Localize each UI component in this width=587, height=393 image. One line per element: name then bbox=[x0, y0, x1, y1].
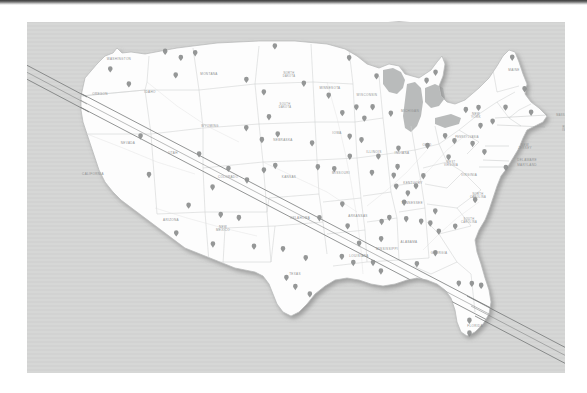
state-label-delaware: DELAWARE bbox=[517, 158, 537, 162]
state-label-missouri: MISSOURI bbox=[332, 171, 350, 175]
state-label-maryland: MARYLAND bbox=[517, 163, 537, 167]
state-label-south-dakota: SOUTHDAKOTA bbox=[279, 102, 292, 109]
state-label-kansas: KANSAS bbox=[282, 175, 296, 179]
state-label-louisiana: LOUISIANA bbox=[349, 254, 369, 258]
state-label-kentucky: KENTUCKY bbox=[403, 181, 422, 185]
state-label-nebraska: NEBRASKA bbox=[273, 138, 293, 142]
eclipse-path-line-center-pacific bbox=[27, 67, 87, 104]
state-label-minnesota: MINNESOTA bbox=[319, 86, 341, 90]
state-label-wyoming: WYOMING bbox=[201, 124, 219, 128]
state-label-new-jersey: NEWJERSEY bbox=[518, 143, 532, 150]
state-label-maine: MAINE bbox=[508, 68, 519, 72]
state-label-oregon: OREGON bbox=[92, 92, 108, 96]
eclipse-path-line-north-pacific bbox=[27, 60, 87, 97]
map-container[interactable]: WASHINGTONOREGONCALIFORNIANEVADAIDAHOMON… bbox=[27, 22, 565, 373]
state-label-washington: WASHINGTON bbox=[107, 57, 131, 61]
state-label-idaho: IDAHO bbox=[144, 90, 156, 94]
state-label-georgia: GEORGIA bbox=[431, 251, 448, 255]
state-label-colorado: COLORADO bbox=[218, 175, 239, 179]
state-label-rhode-island: RHODEISLAND bbox=[562, 125, 565, 132]
slide-top-edge-strip bbox=[0, 0, 587, 5]
state-label-massachusetts: MASSACHUSETTS bbox=[556, 113, 565, 117]
state-label-north-dakota: NORTHDAKOTA bbox=[283, 71, 296, 78]
state-label-pennsylvania: PENNSYLVANIA bbox=[455, 135, 479, 139]
state-label-california: CALIFORNIA bbox=[82, 172, 104, 176]
state-label-utah: UTAH bbox=[168, 151, 177, 155]
state-label-mississippi: MISSISSIPPI bbox=[376, 247, 398, 251]
state-label-new-york: NEWYORK bbox=[471, 112, 481, 119]
state-label-illinois: ILLINOIS bbox=[366, 150, 381, 154]
state-label-ohio: OHIO bbox=[422, 143, 431, 147]
state-label-arkansas: ARKANSAS bbox=[348, 214, 367, 218]
state-label-michigan: MICHIGAN bbox=[401, 109, 419, 113]
state-label-montana: MONTANA bbox=[200, 72, 218, 76]
state-label-virginia: VIRGINIA bbox=[461, 173, 478, 177]
state-label-arizona: ARIZONA bbox=[163, 218, 180, 222]
state-label-florida: FLORIDA bbox=[467, 324, 483, 328]
state-label-texas: TEXAS bbox=[289, 272, 301, 276]
us-eclipse-map-svg[interactable]: WASHINGTONOREGONCALIFORNIANEVADAIDAHOMON… bbox=[27, 22, 565, 373]
state-label-iowa: IOWA bbox=[332, 131, 342, 135]
state-label-oklahoma: OKLAHOMA bbox=[290, 216, 311, 220]
state-label-alabama: ALABAMA bbox=[401, 240, 418, 244]
state-label-tennessee: TENNESSEE bbox=[401, 201, 423, 205]
state-label-nevada: NEVADA bbox=[121, 141, 136, 145]
state-label-indiana: INDIANA bbox=[395, 151, 410, 155]
state-label-wisconsin: WISCONSIN bbox=[357, 93, 378, 97]
presentation-slide: WASHINGTONOREGONCALIFORNIANEVADAIDAHOMON… bbox=[0, 0, 587, 393]
